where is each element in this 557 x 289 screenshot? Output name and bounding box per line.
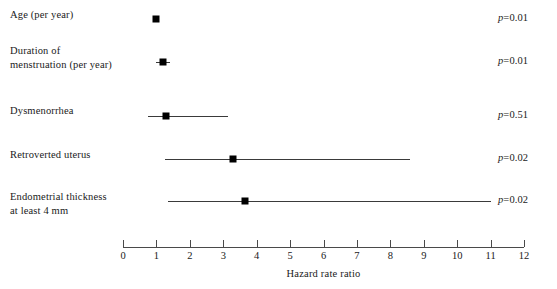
p-value-text: =0.02: [503, 152, 528, 163]
point-estimate-marker: [160, 59, 167, 66]
row-label: Endometrial thicknessat least 4 mm: [10, 190, 150, 217]
axis-tick-label: 8: [388, 250, 393, 261]
axis-tick-label: 10: [452, 250, 463, 261]
axis-line: [123, 247, 524, 248]
p-value-label: p=0.01: [498, 12, 528, 23]
axis-tick-label: 4: [254, 250, 259, 261]
axis-tick: [324, 240, 325, 247]
row-label: Dysmenorrhea: [10, 104, 150, 118]
p-value-label: p=0.02: [498, 152, 528, 163]
confidence-interval-line: [148, 116, 228, 117]
forest-row: Duration ofmenstruation (per year): [0, 44, 557, 88]
axis-title: Hazard rate ratio: [123, 268, 524, 279]
axis-tick: [457, 240, 458, 247]
forest-row: Dysmenorrhea: [0, 104, 557, 148]
p-value-label: p=0.02: [498, 194, 528, 205]
axis-tick: [491, 240, 492, 247]
axis-tick: [524, 240, 525, 247]
row-label-line2: at least 4 mm: [10, 204, 150, 218]
point-estimate-marker: [230, 156, 237, 163]
plot-area: Age (per year)p=0.01Duration ofmenstruat…: [0, 0, 557, 235]
forest-row: Retroverted uterus: [0, 148, 557, 192]
axis-tick-label: 9: [421, 250, 426, 261]
p-value-text: =0.01: [503, 12, 528, 23]
axis-tick-label: 12: [519, 250, 530, 261]
row-label: Age (per year): [10, 8, 150, 22]
p-value-text: =0.01: [503, 55, 528, 66]
confidence-interval-line: [168, 201, 490, 202]
x-axis: Hazard rate ratio 0123456789101112: [0, 235, 557, 289]
axis-tick-label: 11: [486, 250, 496, 261]
axis-tick: [424, 240, 425, 247]
row-label-line2: menstruation (per year): [10, 58, 150, 72]
axis-tick: [357, 240, 358, 247]
p-value-label: p=0.51: [498, 109, 528, 120]
row-label-line1: Duration of: [10, 45, 60, 56]
axis-tick: [156, 240, 157, 247]
axis-tick-label: 7: [354, 250, 359, 261]
p-value-label: p=0.01: [498, 55, 528, 66]
axis-tick: [123, 240, 124, 247]
confidence-interval-line: [165, 159, 411, 160]
row-label: Retroverted uterus: [10, 148, 150, 162]
forest-plot: Age (per year)p=0.01Duration ofmenstruat…: [0, 0, 557, 289]
axis-tick: [390, 240, 391, 247]
axis-tick-label: 2: [187, 250, 192, 261]
axis-tick: [290, 240, 291, 247]
p-value-text: =0.51: [503, 109, 528, 120]
axis-tick-label: 0: [120, 250, 125, 261]
row-label-line1: Endometrial thickness: [10, 191, 107, 202]
axis-tick: [190, 240, 191, 247]
axis-tick: [257, 240, 258, 247]
row-label-line1: Retroverted uterus: [10, 149, 91, 160]
axis-tick-label: 1: [154, 250, 159, 261]
p-value-text: =0.02: [503, 194, 528, 205]
axis-tick: [223, 240, 224, 247]
row-label-line1: Dysmenorrhea: [10, 105, 74, 116]
row-label-line1: Age (per year): [10, 9, 73, 20]
point-estimate-marker: [241, 198, 248, 205]
axis-tick-label: 6: [321, 250, 326, 261]
point-estimate-marker: [153, 16, 160, 23]
axis-tick-label: 3: [221, 250, 226, 261]
point-estimate-marker: [163, 113, 170, 120]
forest-row: Endometrial thicknessat least 4 mm: [0, 190, 557, 234]
row-label: Duration ofmenstruation (per year): [10, 44, 150, 71]
axis-tick-label: 5: [287, 250, 292, 261]
